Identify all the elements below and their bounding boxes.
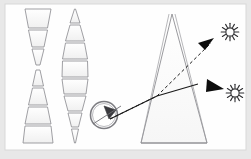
left-stack-shape-6 [23,126,53,143]
diagram-canvas [0,0,251,159]
left-stack-shape-1 [29,30,48,47]
right-stack-shape-4 [62,79,88,94]
right-stack-shape-2 [63,43,88,59]
right-stack-shape-5 [64,96,86,111]
optics-diagram [0,0,251,159]
left-stack-shape-5 [25,107,51,124]
right-stack-shape-3 [62,61,88,77]
left-stack-shape-0 [25,9,51,28]
